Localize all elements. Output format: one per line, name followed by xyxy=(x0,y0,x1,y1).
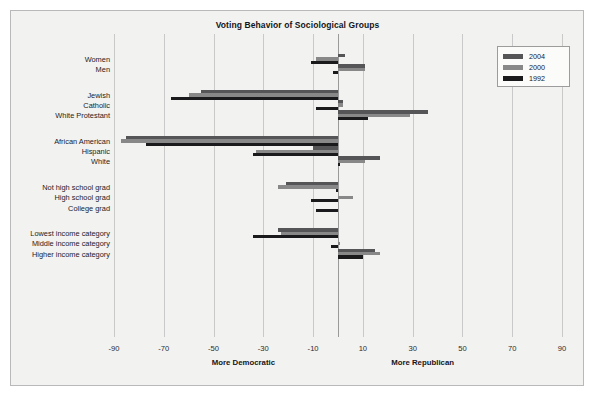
category-label: Men xyxy=(96,65,110,74)
legend-item[interactable]: 2000 xyxy=(503,62,564,73)
x-tick-label--10: -10 xyxy=(308,344,319,353)
category-label: White xyxy=(91,157,110,166)
x-tick-label--50: -50 xyxy=(208,344,219,353)
legend-label-2000: 2000 xyxy=(529,63,545,72)
x-tick-label-90: 90 xyxy=(558,344,566,353)
category-label: Middle income category xyxy=(32,239,110,248)
legend-swatch-1992 xyxy=(503,76,523,81)
legend-item[interactable]: 2004 xyxy=(503,51,564,62)
bar xyxy=(338,255,363,258)
chart-screenshot: Voting Behavior of Sociological Groups W… xyxy=(0,0,595,396)
gridline--50 xyxy=(214,34,215,337)
legend-swatch-2004 xyxy=(503,54,523,59)
bar xyxy=(311,61,338,64)
bar xyxy=(316,107,338,110)
bar xyxy=(253,235,338,238)
bar xyxy=(338,160,365,163)
category-label: High school grad xyxy=(55,193,110,202)
bar xyxy=(338,242,340,245)
category-label: Catholic xyxy=(83,101,110,110)
legend-label-2004: 2004 xyxy=(529,52,545,61)
category-label: African American xyxy=(54,137,110,146)
bar xyxy=(171,97,338,100)
bar xyxy=(336,189,338,192)
gridline-50 xyxy=(462,34,463,337)
bar xyxy=(338,103,343,106)
category-label: College grad xyxy=(68,203,110,212)
category-label: Lowest income category xyxy=(30,229,110,238)
gridline-10 xyxy=(363,34,364,337)
bar xyxy=(253,153,338,156)
x-tick-label--70: -70 xyxy=(158,344,169,353)
chart-title: Voting Behavior of Sociological Groups xyxy=(0,20,595,30)
bar xyxy=(338,54,345,57)
bar xyxy=(338,117,368,120)
bar xyxy=(278,185,338,188)
bar xyxy=(316,209,338,212)
category-label: Not high school grad xyxy=(42,183,110,192)
bar xyxy=(311,199,338,202)
x-tick-label-50: 50 xyxy=(458,344,466,353)
axis-note-more-democratic: More Democratic xyxy=(212,358,275,367)
x-tick-label-10: 10 xyxy=(359,344,367,353)
legend-item[interactable]: 1992 xyxy=(503,73,564,84)
gridline--70 xyxy=(164,34,165,337)
plot-area xyxy=(114,34,562,337)
bar xyxy=(331,245,338,248)
axis-note-more-republican: More Republican xyxy=(391,358,454,367)
bar xyxy=(333,71,338,74)
category-label: Higher income category xyxy=(32,249,110,258)
x-tick-label-30: 30 xyxy=(408,344,416,353)
category-label: Jewish xyxy=(87,90,110,99)
x-tick-label--90: -90 xyxy=(109,344,120,353)
category-label: White Protestant xyxy=(55,111,110,120)
gridline--30 xyxy=(263,34,264,337)
category-axis-labels: WomenMenJewishCatholicWhite ProtestantAf… xyxy=(0,34,110,337)
legend-swatch-2000 xyxy=(503,65,523,70)
bar xyxy=(146,143,338,146)
category-label: Hispanic xyxy=(82,147,110,156)
bar xyxy=(338,196,353,199)
bar xyxy=(338,163,340,166)
gridline-30 xyxy=(413,34,414,337)
category-label: Women xyxy=(85,55,110,64)
legend-label-1992: 1992 xyxy=(529,74,545,83)
x-tick-label-70: 70 xyxy=(508,344,516,353)
zero-axis-line xyxy=(338,34,339,337)
gridline--90 xyxy=(114,34,115,337)
bar xyxy=(338,68,365,71)
x-tick-label--30: -30 xyxy=(258,344,269,353)
chart-legend: 2004 2000 1992 xyxy=(497,46,570,87)
